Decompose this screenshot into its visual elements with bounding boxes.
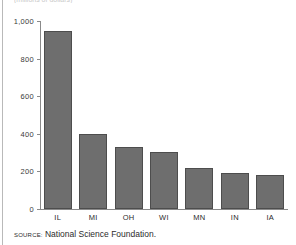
- source-label: SOURCE:: [14, 232, 43, 238]
- y-tick-label: 800: [21, 54, 34, 63]
- y-tick-label: 1,000: [14, 17, 34, 26]
- source-note: SOURCE: National Science Foundation.: [14, 229, 156, 239]
- x-tick-label: OH: [111, 213, 146, 222]
- x-tick-label: IN: [217, 213, 252, 222]
- y-tick-mark: [37, 96, 40, 97]
- y-tick-mark: [37, 59, 40, 60]
- y-tick-mark: [37, 209, 40, 210]
- left-border-rule: [2, 0, 3, 245]
- bar: [79, 134, 107, 209]
- y-tick-label: 200: [21, 167, 34, 176]
- source-value: National Science Foundation.: [45, 229, 156, 239]
- y-axis-line: [40, 21, 41, 210]
- y-tick-mark: [37, 21, 40, 22]
- y-tick-mark: [37, 134, 40, 135]
- y-tick-label: 0: [30, 205, 34, 214]
- y-tick-label: 600: [21, 92, 34, 101]
- bar: [150, 152, 178, 209]
- y-tick-label: 400: [21, 129, 34, 138]
- x-axis-line: [40, 209, 288, 210]
- x-tick-label: MI: [75, 213, 110, 222]
- bar: [115, 147, 143, 209]
- bar-chart-figure: (millions of dollars) 02004006008001,000…: [0, 0, 296, 245]
- x-tick-label: WI: [146, 213, 181, 222]
- bar: [185, 168, 213, 209]
- bar: [221, 173, 249, 209]
- bar: [44, 31, 72, 209]
- chart-subtitle-clipped: (millions of dollars): [14, 0, 234, 3]
- bar: [256, 175, 284, 209]
- x-tick-label: IA: [253, 213, 288, 222]
- plot-area: 02004006008001,000 ILMIOHWIMNINIA: [40, 21, 288, 209]
- x-tick-label: MN: [182, 213, 217, 222]
- y-tick-mark: [37, 171, 40, 172]
- x-tick-label: IL: [40, 213, 75, 222]
- chart-subtitle-text: (millions of dollars): [14, 0, 234, 3]
